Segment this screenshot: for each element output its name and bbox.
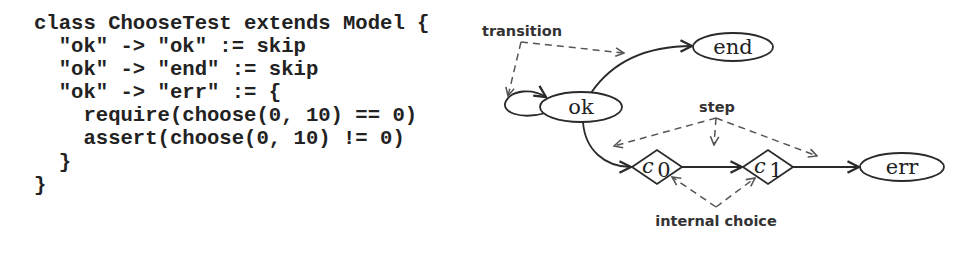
state-end: end [693,33,773,61]
state-ok: ok [540,92,622,122]
edge-ok-ok [505,91,546,115]
state-ok-label: ok [568,95,594,119]
choice-c0-label: c [642,154,654,178]
choice-c1-subscript: 1 [769,158,782,182]
pointer-choice-to-c0 [672,177,716,207]
annotation-internal-choice: internal choice [655,177,777,229]
state-err-label: err [886,155,919,179]
edge-ok-end [591,46,692,93]
choice-c0-subscript: 0 [657,158,670,182]
annotation-step: step [614,99,817,156]
choice-c1-label: c [754,154,766,178]
pointer-choice-to-c1 [716,178,755,207]
pointer-step-to-edge-c0-c1 [714,118,716,145]
annotation-internal-choice-label: internal choice [655,213,777,229]
annotation-step-label: step [699,99,735,115]
pointer-transition-to-edge [521,42,624,53]
edge-ok-c0 [583,122,631,167]
annotation-transition: transition [482,23,624,96]
pointer-step-to-edge-ok-c0 [614,118,716,146]
pointer-transition-to-loop [508,42,521,96]
annotation-transition-label: transition [482,23,562,39]
choice-c1: c 1 [743,150,793,184]
state-end-label: end [713,35,752,59]
state-diagram: ok end err c 0 c 1 transition step inter… [0,0,980,253]
state-err: err [860,153,944,181]
